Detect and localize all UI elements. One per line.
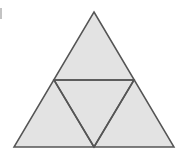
left-edge-mark <box>0 8 2 19</box>
triangle-diagram <box>0 0 186 155</box>
figure-canvas <box>0 0 186 155</box>
